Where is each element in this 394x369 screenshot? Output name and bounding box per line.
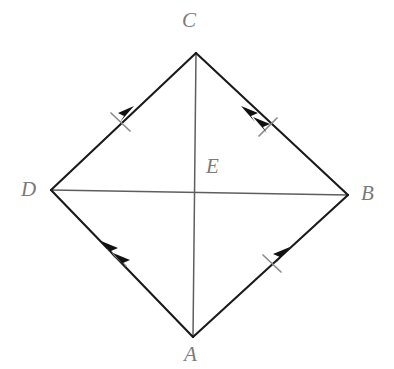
vertex-label-a: A [184,344,197,365]
geometry-figure [0,0,394,369]
side-dc [51,53,196,190]
diagonal-db [51,190,348,195]
vertex-label-b: B [361,183,374,204]
vertex-label-c: C [182,10,196,31]
tick-mark-dc [111,113,130,131]
side-group [51,53,348,337]
diagonal-group [51,53,348,337]
geometry-diagram-canvas: C D B A E [0,0,394,369]
side-ad [51,190,193,337]
vertex-label-e: E [206,156,219,177]
vertex-label-d: D [21,179,36,200]
side-ab [193,195,348,337]
arrowhead-ad-2 [113,253,130,269]
diagonal-ca [193,53,196,337]
